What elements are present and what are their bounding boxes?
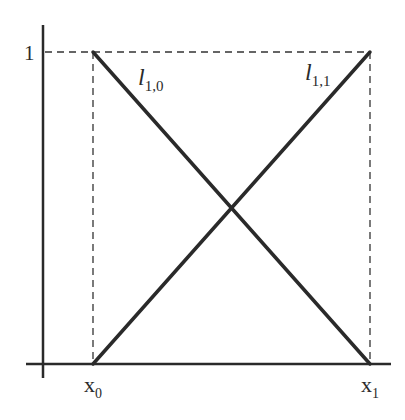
x-tick-label-x1: x1 bbox=[361, 372, 379, 401]
label-l11: l1,1 bbox=[305, 59, 330, 89]
label-l10: l1,0 bbox=[138, 64, 163, 94]
y-tick-label-1: 1 bbox=[24, 41, 35, 65]
basis-function-diagram: 1 l1,0 l1,1 x0 x1 bbox=[0, 0, 405, 420]
x-tick-label-x0: x0 bbox=[84, 372, 102, 401]
